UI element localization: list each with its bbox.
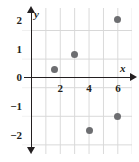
y-axis-arrow-down-icon [27,147,35,154]
scatter-plot-figure: x y 246 210−1−2 [0,0,139,162]
x-axis-arrow-icon [130,73,137,81]
y-tick-label: 1 [2,44,22,55]
y-axis-label: y [34,9,39,20]
x-tick-label: 2 [52,83,68,94]
data-point [51,66,58,73]
x-tick-label: 4 [81,83,97,94]
y-tick-label: −2 [2,130,22,141]
x-axis-label: x [120,63,126,74]
x-tick-label: 6 [110,83,126,94]
y-tick-label: −1 [2,101,22,112]
y-tick-label: 0 [2,72,22,83]
x-axis-line [24,77,131,78]
grid-left-margin [22,8,31,154]
y-tick-label: 2 [2,15,22,26]
data-point [86,127,93,134]
y-axis-line [31,12,32,152]
plot-grid-area [31,8,132,154]
